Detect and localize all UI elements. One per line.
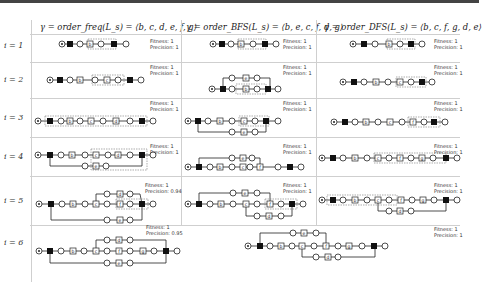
net-r2-c3: b c bbox=[340, 77, 435, 87]
svg-text:d: d bbox=[115, 119, 118, 124]
svg-text:d: d bbox=[117, 153, 120, 158]
svg-text:b: b bbox=[354, 198, 357, 203]
net-r3-c2: b c e bbox=[185, 116, 281, 135]
net-r5-c2: b c f e d bbox=[185, 190, 306, 219]
net-r4-c3: b c f g bbox=[319, 153, 460, 163]
svg-text:b: b bbox=[240, 42, 243, 47]
net-r4-c1: b c d e bbox=[35, 149, 156, 170]
net-r3-c3: b c f bbox=[331, 117, 448, 127]
net-r5-c3: b c f g d bbox=[319, 195, 460, 214]
net-r2-c2: e b bbox=[209, 75, 281, 94]
svg-text:b: b bbox=[72, 202, 75, 207]
svg-text:d: d bbox=[118, 238, 121, 243]
svg-text:b: b bbox=[388, 42, 391, 47]
net-r6-c1: b c f g d e bbox=[36, 237, 180, 266]
svg-text:d: d bbox=[268, 214, 271, 219]
svg-text:b: b bbox=[219, 119, 222, 124]
svg-text:e: e bbox=[119, 218, 122, 223]
svg-text:e: e bbox=[245, 76, 248, 81]
svg-text:b: b bbox=[220, 202, 223, 207]
svg-text:e: e bbox=[118, 261, 121, 266]
svg-text:b: b bbox=[71, 153, 74, 158]
svg-text:d: d bbox=[399, 209, 402, 214]
svg-text:d: d bbox=[327, 255, 330, 260]
svg-text:g: g bbox=[348, 244, 351, 249]
net-r1-c2: b bbox=[210, 39, 279, 49]
net-r4-c2: b c f e bbox=[185, 155, 304, 170]
svg-text:d: d bbox=[119, 192, 122, 197]
net-r6-c2: b c f g e d bbox=[245, 230, 388, 260]
svg-text:g: g bbox=[422, 198, 425, 203]
svg-text:g: g bbox=[421, 156, 424, 161]
svg-text:e: e bbox=[244, 191, 247, 196]
svg-text:b: b bbox=[354, 156, 357, 161]
svg-text:e: e bbox=[303, 231, 306, 236]
svg-text:e: e bbox=[95, 164, 98, 169]
svg-text:b: b bbox=[375, 80, 378, 85]
svg-text:b: b bbox=[280, 244, 283, 249]
svg-text:b: b bbox=[72, 249, 75, 254]
svg-text:b: b bbox=[219, 165, 222, 170]
svg-text:e: e bbox=[243, 130, 246, 135]
net-r1-c3: b bbox=[350, 39, 425, 49]
svg-text:e: e bbox=[242, 156, 245, 161]
svg-text:b: b bbox=[89, 42, 92, 47]
svg-text:b: b bbox=[245, 87, 248, 92]
net-r2-c1: b c bbox=[47, 75, 144, 85]
net-r5-c1: b c f d e bbox=[36, 191, 156, 223]
net-r3-c1: b c d bbox=[35, 116, 156, 126]
net-r1-c1: b bbox=[59, 39, 129, 49]
svg-text:b: b bbox=[69, 119, 72, 124]
svg-text:b: b bbox=[365, 120, 368, 125]
svg-text:g: g bbox=[142, 249, 145, 254]
svg-text:b: b bbox=[79, 78, 82, 83]
